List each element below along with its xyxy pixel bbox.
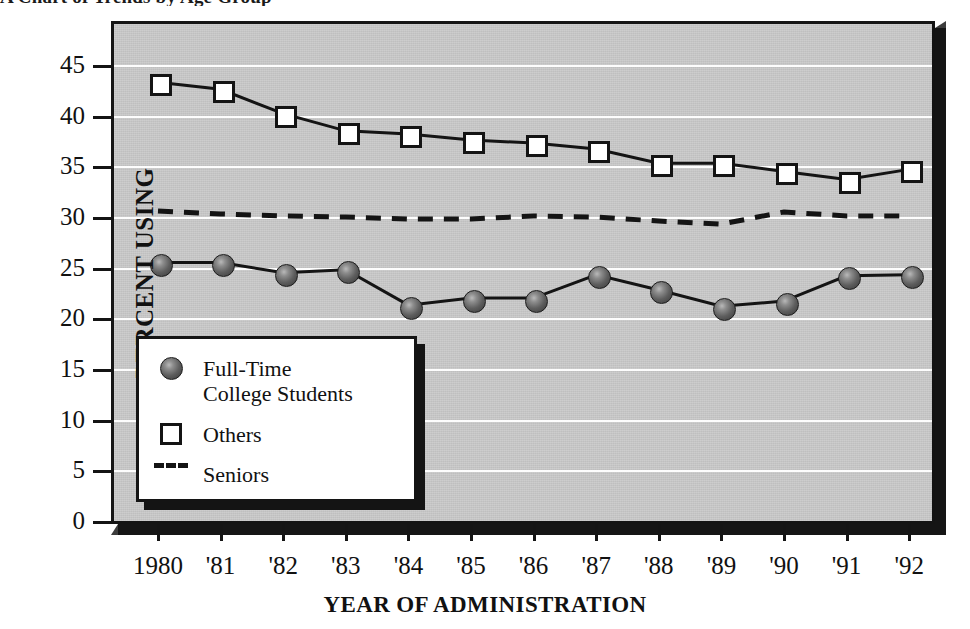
data-point-square[interactable] [463,132,485,154]
y-tick-mark [93,521,111,524]
data-point-circle[interactable] [463,290,486,313]
x-tick-mark [846,524,849,541]
x-tick-mark [220,524,223,541]
data-point-square[interactable] [839,172,861,194]
data-point-circle[interactable] [588,266,611,289]
x-tick-mark [658,524,661,541]
legend-label: Seniors [203,463,269,488]
data-point-square[interactable] [213,81,235,103]
frame-bevel-top-right [935,21,946,28]
x-tick-mark [533,524,536,541]
legend-swatch [139,463,203,468]
open-square-icon [160,423,182,445]
y-tick-label: 45 [19,52,85,77]
dashed-line-icon [154,463,188,468]
legend-item[interactable]: Full-Time College Students [139,357,353,406]
y-tick-label: 40 [19,103,85,128]
data-point-square[interactable] [526,135,548,157]
y-tick-label: 35 [19,153,85,178]
y-tick-label: 0 [19,508,85,533]
data-point-circle[interactable] [713,298,736,321]
data-point-circle[interactable] [525,290,548,313]
y-tick-mark [93,470,111,473]
y-tick-mark [93,420,111,423]
data-point-circle[interactable] [275,264,298,287]
x-tick-mark [282,524,285,541]
y-tick-label: 5 [19,457,85,482]
data-point-square[interactable] [651,155,673,177]
data-point-square[interactable] [588,141,610,163]
x-tick-mark [595,524,598,541]
data-point-square[interactable] [901,161,923,183]
chart-title: A Chart of Trends by Age Group [0,0,970,6]
y-tick-mark [93,166,111,169]
legend-swatch [139,423,203,445]
legend: Full-Time College StudentsOthersSeniors [136,336,417,502]
x-tick-mark [157,524,160,541]
y-tick-mark [93,369,111,372]
chart-frame: 051015202530354045 1980'81'82'83'84'85'8… [111,21,935,524]
data-point-square[interactable] [275,106,297,128]
y-tick-mark [93,65,111,68]
data-point-square[interactable] [713,155,735,177]
y-tick-mark [93,116,111,119]
data-point-square[interactable] [776,163,798,185]
data-point-circle[interactable] [776,293,799,316]
x-tick-mark [470,524,473,541]
y-tick-label: 30 [19,204,85,229]
x-tick-mark [345,524,348,541]
y-tick-label: 10 [19,407,85,432]
y-tick-mark [93,318,111,321]
y-tick-label: 25 [19,255,85,280]
legend-item[interactable]: Seniors [139,463,269,488]
x-tick-mark [407,524,410,541]
x-tick-mark [720,524,723,541]
data-point-square[interactable] [338,123,360,145]
series-line-2 [158,211,909,224]
data-point-circle[interactable] [400,297,423,320]
legend-swatch [139,357,203,380]
legend-item[interactable]: Others [139,423,262,448]
data-point-square[interactable] [400,126,422,148]
filled-circle-icon [160,357,183,380]
y-tick-label: 15 [19,356,85,381]
y-tick-mark [93,268,111,271]
legend-label: Others [203,423,262,448]
y-tick-mark [93,217,111,220]
y-tick-label: 20 [19,305,85,330]
legend-label: Full-Time College Students [203,357,353,406]
x-tick-label: '92 [864,553,954,578]
x-tick-mark [783,524,786,541]
x-axis-title: YEAR OF ADMINISTRATION [0,592,970,618]
frame-bevel-bottom-left [111,524,118,535]
frame-shadow-right [935,28,946,531]
data-point-circle[interactable] [901,266,924,289]
x-tick-mark [908,524,911,541]
